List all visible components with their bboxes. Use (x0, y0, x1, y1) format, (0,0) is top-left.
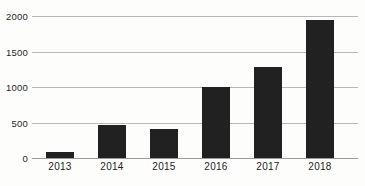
x-tick-label-2017: 2017 (246, 161, 290, 172)
x-tick-label-2016: 2016 (194, 161, 238, 172)
bar-2013 (46, 152, 74, 158)
axis-baseline (32, 158, 358, 159)
bar-2017 (254, 67, 282, 158)
x-tick-label-2013: 2013 (38, 161, 82, 172)
x-tick-label-2014: 2014 (90, 161, 134, 172)
plot-area: 2000 1500 1000 500 0 2013 2014 2015 2016… (0, 0, 365, 170)
bars-layer (0, 16, 365, 158)
caption-remnant (4, 177, 304, 184)
bar-chart-figure: 2000 1500 1000 500 0 2013 2014 2015 2016… (0, 0, 365, 186)
bar-2014 (98, 125, 126, 158)
bar-2016 (202, 87, 230, 158)
bar-2015 (150, 129, 178, 158)
x-tick-label-2015: 2015 (142, 161, 186, 172)
x-tick-label-2018: 2018 (298, 161, 342, 172)
bar-2018 (306, 20, 334, 158)
